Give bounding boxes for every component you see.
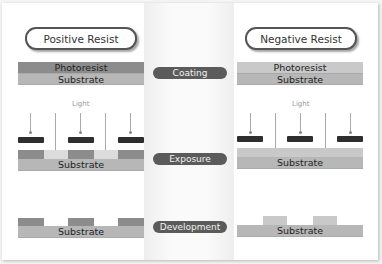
unexposed-resist [18,150,44,159]
light-ray-icon [250,113,251,132]
unexposed-resist [118,150,144,159]
remaining-resist [263,216,287,225]
exposed-resist [44,150,68,159]
photomask-icon [118,137,144,143]
light-ray-icon [325,113,326,149]
step-exposure: Exposure [153,153,227,165]
light-ray-icon [55,113,56,151]
negative-substrate-development: Substrate [237,225,363,237]
remaining-resist [313,216,337,225]
unexposed-resist [68,150,94,159]
exposed-resist [94,150,118,159]
light-ray-icon [80,113,81,132]
negative-substrate-exposure: Substrate [237,157,363,169]
positive-resist-title: Positive Resist [25,27,137,50]
photomask-icon [287,136,313,142]
negative-photoresist-layer: Photoresist [237,62,363,74]
photomask-icon [18,137,44,143]
photomask-icon [337,136,363,142]
negative-substrate-coating: Substrate [237,74,363,85]
positive-substrate-development: Substrate [18,226,144,238]
negative-resist-exposed [237,148,363,157]
positive-light-label: Light [72,100,89,108]
negative-light-label: Light [292,100,309,108]
step-coating: Coating [153,67,227,79]
light-ray-icon [130,113,131,132]
photomask-icon [68,137,94,143]
step-development: Development [153,221,227,233]
light-ray-icon [30,113,31,132]
positive-substrate-coating: Substrate [18,74,144,85]
negative-resist-title: Negative Resist [245,27,357,50]
photomask-icon [237,136,263,142]
light-ray-icon [350,113,351,132]
light-ray-icon [300,113,301,132]
light-ray-icon [105,113,106,151]
positive-substrate-exposure: Substrate [18,159,144,171]
light-ray-icon [275,113,276,149]
positive-photoresist-layer: Photoresist [18,62,144,74]
